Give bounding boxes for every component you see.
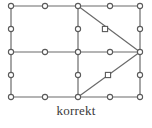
mesh-node-n16	[75, 72, 80, 77]
mesh-node-n23	[137, 94, 142, 99]
mesh-node-n10	[8, 49, 13, 54]
mesh-node-n2	[42, 3, 47, 8]
mesh-node-n21	[75, 94, 80, 99]
mesh-node-n18	[137, 72, 142, 77]
mesh-edge-upper-diagonal	[78, 6, 140, 52]
mesh-node-n6	[8, 26, 13, 31]
mesh-node-n4	[107, 3, 112, 8]
mesh-node-n17	[105, 72, 110, 77]
mesh-node-n7	[75, 26, 80, 31]
mesh-node-n14	[137, 49, 142, 54]
mesh-node-n8	[102, 26, 107, 31]
mesh-figure: korrekt	[0, 0, 152, 128]
mesh-node-n15	[8, 72, 13, 77]
mesh-node-n13	[107, 49, 112, 54]
mesh-node-n5	[137, 3, 142, 8]
mesh-node-n20	[42, 94, 47, 99]
mesh-node-n22	[107, 94, 112, 99]
mesh-node-n19	[8, 94, 13, 99]
mesh-node-n9	[137, 26, 142, 31]
mesh-node-n11	[42, 49, 47, 54]
mesh-node-n1	[8, 3, 13, 8]
figure-caption: korrekt	[0, 103, 152, 119]
mesh-node-n12	[75, 49, 80, 54]
mesh-node-n3	[75, 3, 80, 8]
